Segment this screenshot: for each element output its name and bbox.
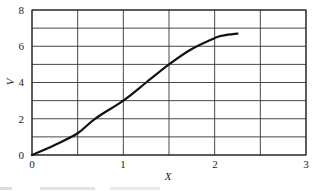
clipped-caption xyxy=(0,184,319,191)
grid-lines xyxy=(32,10,306,155)
xtick-label-3: 3 xyxy=(303,158,309,170)
x-axis-label: X xyxy=(164,170,173,182)
ytick-label-6: 6 xyxy=(19,40,25,52)
ytick-label-0: 0 xyxy=(19,149,25,161)
ytick-label-4: 4 xyxy=(19,76,25,88)
line-chart: 8 6 4 2 0 0 1 2 3 X V xyxy=(0,0,319,191)
xtick-label-2: 2 xyxy=(212,158,218,170)
xtick-label-1: 1 xyxy=(120,158,126,170)
y-axis-label: V xyxy=(4,77,16,85)
xtick-label-0: 0 xyxy=(29,158,35,170)
ytick-label-2: 2 xyxy=(19,113,25,125)
ytick-label-8: 8 xyxy=(19,4,25,16)
